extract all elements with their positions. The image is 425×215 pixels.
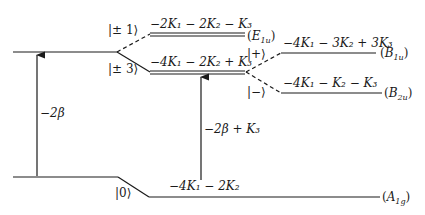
arrow-left-label: −2β (40, 106, 65, 120)
energy-E1u: −2K₁ − 2K₂ − K₃ (150, 17, 252, 31)
symmetry-B2u: (B2u) (384, 86, 412, 102)
sym-B2u-sub: 2u (397, 93, 408, 102)
ket-zero: |0⟩ (115, 186, 131, 200)
arrow-right-label: −2β + K₃ (204, 122, 260, 136)
energy-B1u: −4K₁ − 3K₂ + 3K₃ (283, 36, 393, 50)
sym-B2u-main: B (388, 86, 398, 100)
sym-B1u-main: B (384, 46, 394, 60)
symmetry-E1u: (E1u) (247, 29, 275, 45)
energy-B2u: −4K₁ − K₂ − K₃ (283, 76, 378, 90)
symmetry-A1g: (A1g) (382, 190, 410, 206)
sym-E1u-sub: 1u (260, 36, 270, 45)
ket-pm3: |± 3⟩ (108, 62, 138, 76)
energy-level-diagram: |± 1⟩ |± 3⟩ |+⟩ |−⟩ |0⟩ −2K₁ − 2K₂ − K₃ … (0, 0, 425, 215)
sym-E1u-main: E (251, 29, 261, 43)
ket-minus: |−⟩ (247, 85, 266, 99)
sym-B1u-sub: 1u (394, 53, 404, 62)
sym-A1g-main: A (386, 190, 396, 204)
symmetry-B1u: (B1u) (380, 46, 408, 62)
sym-A1g-sub: 1g (395, 197, 405, 206)
energy-A1g: −4K₁ − 2K₂ (169, 179, 240, 193)
energy-pm3: −4K₁ − 2K₂ + K₃ (150, 55, 252, 69)
ket-pm1: |± 1⟩ (108, 23, 138, 37)
